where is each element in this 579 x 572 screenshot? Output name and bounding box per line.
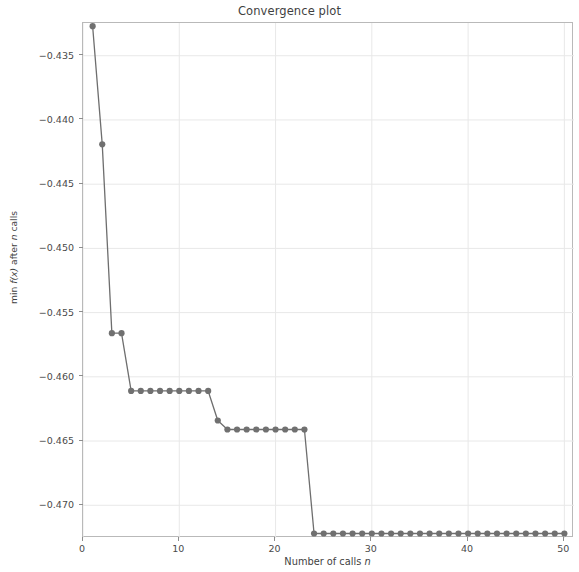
y-tick-label: −0.435 [39,49,74,60]
data-point-marker [109,330,115,336]
data-point-marker [532,530,538,536]
data-point-marker [349,530,355,536]
data-point-marker [157,388,163,394]
y-tick-mark [79,183,83,184]
data-point-marker [282,426,288,432]
data-point-marker [244,426,250,432]
y-tick-label: −0.450 [39,242,74,253]
data-point-marker [311,530,317,536]
y-axis-label-argument: (x) [8,268,19,281]
data-point-marker [388,530,394,536]
data-point-marker [465,530,471,536]
data-point-marker [195,388,201,394]
y-tick-label: −0.455 [39,306,74,317]
data-point-marker [504,530,510,536]
x-axis-label: Number of calls n [82,556,573,567]
data-point-marker [494,530,500,536]
data-point-marker [475,530,481,536]
data-point-marker [561,530,567,536]
series-line [93,26,565,533]
y-tick-label: −0.445 [39,178,74,189]
data-point-marker [359,530,365,536]
data-point-marker [552,530,558,536]
y-tick-label: −0.465 [39,435,74,446]
data-point-marker [398,530,404,536]
data-point-marker [224,426,230,432]
data-point-marker [186,388,192,394]
y-tick-label: −0.460 [39,370,74,381]
x-tick-mark [82,537,83,541]
x-tick-mark [178,537,179,541]
x-tick-label: 0 [79,543,85,554]
data-point-marker [99,141,105,147]
data-point-marker [407,530,413,536]
y-tick-mark [79,440,83,441]
data-point-marker [321,530,327,536]
x-tick-label: 40 [461,543,473,554]
y-axis-label-variable: n [8,235,19,241]
data-point-marker [205,388,211,394]
data-point-marker [292,426,298,432]
y-tick-mark [79,118,83,119]
data-point-marker [436,530,442,536]
data-point-marker [446,530,452,536]
data-point-marker [147,388,153,394]
data-point-marker [484,530,490,536]
y-tick-mark [79,247,83,248]
convergence-plot-figure: Convergence plot −0.435−0.440−0.445−0.45… [0,0,579,572]
data-point-marker [90,23,96,29]
x-tick-mark [467,537,468,541]
data-point-marker [167,388,173,394]
data-point-marker [215,417,221,423]
y-tick-label: −0.470 [39,499,74,510]
data-point-marker [234,426,240,432]
data-point-marker [263,426,269,432]
data-point-marker [340,530,346,536]
x-axis-label-variable: n [364,556,370,567]
data-point-marker [128,388,134,394]
y-tick-mark [79,54,83,55]
data-point-marker [301,426,307,432]
x-tick-label: 20 [269,543,281,554]
data-point-marker [513,530,519,536]
x-tick-label: 10 [172,543,184,554]
data-point-marker [330,530,336,536]
data-point-marker [253,426,259,432]
chart-title: Convergence plot [0,4,579,18]
x-tick-mark [370,537,371,541]
y-axis-label-function: f [8,281,19,284]
data-point-marker [118,330,124,336]
data-point-marker [272,426,278,432]
y-tick-label: −0.440 [39,113,74,124]
y-tick-mark [79,504,83,505]
data-point-marker [176,388,182,394]
data-point-marker [378,530,384,536]
y-tick-mark [79,311,83,312]
data-point-marker [426,530,432,536]
data-point-marker [455,530,461,536]
convergence-series [83,23,574,538]
x-tick-label: 50 [557,543,569,554]
x-tick-label: 30 [365,543,377,554]
data-point-marker [523,530,529,536]
y-tick-mark [79,375,83,376]
x-tick-mark [274,537,275,541]
data-point-marker [417,530,423,536]
y-axis-label: min f(x) after n calls [8,183,19,333]
data-point-marker [542,530,548,536]
x-tick-mark [563,537,564,541]
data-point-marker [369,530,375,536]
data-point-marker [138,388,144,394]
plot-area [82,22,573,537]
